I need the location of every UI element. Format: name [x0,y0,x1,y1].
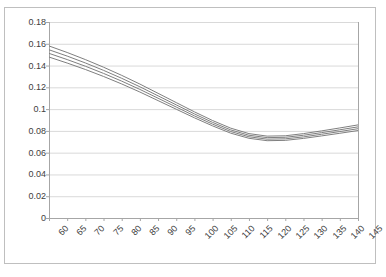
x-axis-tick-label: 135 [331,224,348,241]
line-chart: 00.020.040.060.080.10.120.140.160.18 606… [0,0,386,277]
x-axis-tick-label: 70 [93,224,106,237]
x-axis-tick-label: 80 [130,224,143,237]
x-axis-tick-label: 145 [367,224,384,241]
x-axis-tick-label: 140 [349,224,366,241]
x-axis-tick-label: 125 [295,224,312,241]
x-axis-tick-label: 110 [240,224,257,241]
x-axis-tick-label: 120 [277,224,294,241]
x-axis-tick-label: 75 [111,224,124,237]
x-axis-tick-label: 105 [222,224,239,241]
x-axis-tick-label: 85 [148,224,161,237]
x-axis-tick-label: 100 [204,224,221,241]
x-axis-tick-label: 65 [75,224,88,237]
x-axis-tick-label: 60 [57,224,70,237]
x-axis-tick-label: 95 [184,224,197,237]
x-axis-tick-label: 90 [166,224,179,237]
x-axis-tick-label: 115 [258,224,275,241]
x-axis-tick-label: 130 [313,224,330,241]
x-axis-labels: 6065707580859095100105110115120125130135… [0,0,386,277]
